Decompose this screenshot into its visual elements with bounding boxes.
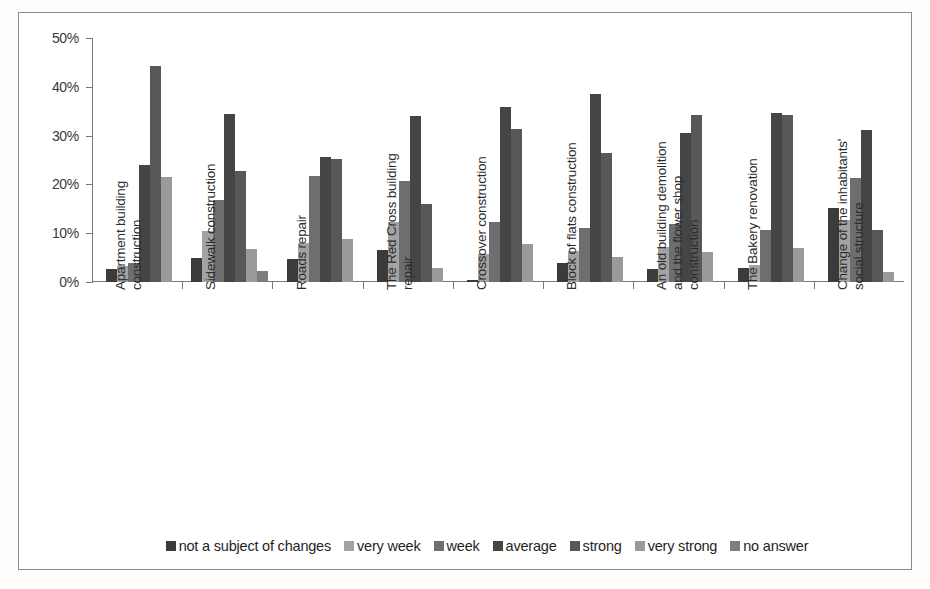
y-axis-label: 50% bbox=[35, 31, 79, 45]
bar bbox=[161, 177, 172, 282]
legend-label: week bbox=[447, 538, 480, 554]
legend-item: not a subject of changes bbox=[166, 538, 331, 554]
legend-label: no answer bbox=[743, 538, 808, 554]
legend-swatch-icon bbox=[730, 541, 740, 551]
legend-swatch-icon bbox=[166, 541, 176, 551]
bar bbox=[771, 113, 782, 282]
legend-item: very week bbox=[344, 538, 420, 554]
bar bbox=[500, 107, 511, 282]
y-axis-label: 40% bbox=[35, 80, 79, 94]
x-axis-tick bbox=[272, 282, 273, 289]
bar bbox=[782, 115, 793, 282]
bar bbox=[320, 157, 331, 282]
chart-frame: 0%10%20%30%40%50% Apartment building con… bbox=[18, 12, 912, 570]
bar bbox=[432, 268, 443, 282]
bar bbox=[421, 204, 432, 282]
legend-label: not a subject of changes bbox=[179, 538, 331, 554]
bar bbox=[872, 230, 883, 282]
bar bbox=[342, 239, 353, 282]
bar bbox=[235, 171, 246, 282]
legend-swatch-icon bbox=[493, 541, 503, 551]
category-label: The Red Cross building repair bbox=[384, 153, 416, 290]
bar bbox=[612, 257, 623, 282]
bar bbox=[590, 94, 601, 282]
x-axis-tick bbox=[724, 282, 725, 289]
bar bbox=[224, 114, 235, 282]
legend-label: very strong bbox=[648, 538, 718, 554]
y-axis-label: 30% bbox=[35, 129, 79, 143]
legend-swatch-icon bbox=[344, 541, 354, 551]
legend-swatch-icon bbox=[570, 541, 580, 551]
bar bbox=[793, 248, 804, 282]
x-axis-tick bbox=[363, 282, 364, 289]
category-label: Roads repair bbox=[294, 215, 310, 290]
x-axis-tick bbox=[453, 282, 454, 289]
legend-item: strong bbox=[570, 538, 622, 554]
legend-swatch-icon bbox=[635, 541, 645, 551]
bar bbox=[309, 176, 320, 282]
category-label: The Bakery renovation bbox=[745, 158, 761, 290]
legend-label: strong bbox=[583, 538, 622, 554]
bar bbox=[702, 252, 713, 282]
y-axis-tick bbox=[86, 282, 93, 283]
x-axis-tick bbox=[814, 282, 815, 289]
bar bbox=[257, 271, 268, 282]
legend-label: average bbox=[506, 538, 557, 554]
category-label: Crossover construction bbox=[474, 156, 490, 290]
category-label: Block of flats construction bbox=[564, 142, 580, 290]
category-label: Apartment building construction bbox=[113, 181, 145, 290]
x-axis-tick bbox=[543, 282, 544, 289]
bar bbox=[191, 258, 202, 282]
legend-item: very strong bbox=[635, 538, 718, 554]
y-axis-label: 10% bbox=[35, 226, 79, 240]
category-label: Sidewalk construction bbox=[203, 164, 219, 290]
bar bbox=[522, 244, 533, 282]
legend-item: average bbox=[493, 538, 557, 554]
legend-swatch-icon bbox=[434, 541, 444, 551]
x-axis-tick bbox=[182, 282, 183, 289]
bar bbox=[489, 222, 500, 282]
y-axis-label: 0% bbox=[35, 275, 79, 289]
y-axis-label: 20% bbox=[35, 177, 79, 191]
bar bbox=[331, 159, 342, 282]
legend-item: no answer bbox=[730, 538, 808, 554]
bar bbox=[601, 153, 612, 282]
bar bbox=[579, 228, 590, 282]
legend-item: week bbox=[434, 538, 480, 554]
legend-label: very week bbox=[357, 538, 420, 554]
bar bbox=[760, 230, 771, 282]
bar bbox=[150, 66, 161, 282]
bar bbox=[511, 129, 522, 282]
x-axis-tick bbox=[633, 282, 634, 289]
category-label: Change of the inhabitants' social struct… bbox=[835, 139, 867, 290]
bar bbox=[883, 272, 894, 282]
bar bbox=[246, 249, 257, 282]
chart-legend: not a subject of changesvery weekweekave… bbox=[92, 538, 882, 554]
category-label: An old building demolition and the flowe… bbox=[654, 141, 702, 290]
